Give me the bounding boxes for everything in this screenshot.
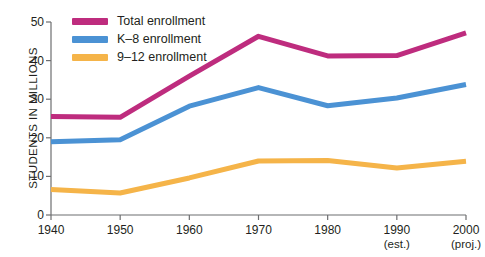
legend-item: 9–12 enrollment	[72, 48, 207, 66]
legend-item: K–8 enrollment	[72, 30, 207, 48]
x-axis-tick-note: (proj.)	[436, 238, 485, 251]
x-axis-tick-label: 1980	[298, 224, 358, 238]
x-axis-tick-label: 1990(est.)	[367, 224, 427, 251]
x-axis-tick-label: 1950	[90, 224, 150, 238]
x-axis-tick-note: (est.)	[367, 238, 427, 251]
legend-swatch-icon	[72, 36, 108, 43]
x-axis-tick-label: 1960	[159, 224, 219, 238]
legend-swatch-icon	[72, 18, 108, 25]
x-axis-tick-label: 1970	[229, 224, 289, 238]
legend-item: Total enrollment	[72, 12, 207, 30]
legend-label: Total enrollment	[117, 14, 205, 28]
chart-legend: Total enrollmentK–8 enrollment9–12 enrol…	[72, 12, 207, 66]
legend-label: K–8 enrollment	[117, 32, 201, 46]
x-axis-tick-label: 1940	[21, 224, 81, 238]
legend-swatch-icon	[72, 54, 108, 61]
legend-label: 9–12 enrollment	[117, 50, 207, 64]
x-axis-tick-label: 2000(proj.)	[436, 224, 485, 251]
